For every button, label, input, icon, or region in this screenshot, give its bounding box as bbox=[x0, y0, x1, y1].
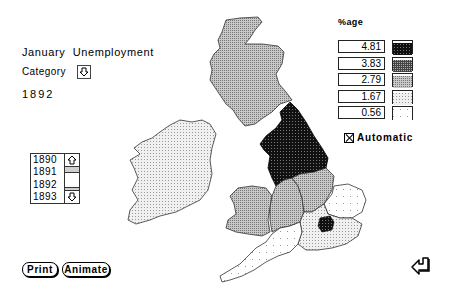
scroll-track[interactable] bbox=[65, 166, 79, 191]
year-item[interactable]: 1893 bbox=[33, 191, 64, 203]
region-ireland[interactable] bbox=[128, 120, 216, 224]
region-wales[interactable] bbox=[226, 186, 272, 236]
uk-map bbox=[100, 0, 440, 296]
scroll-thumb[interactable] bbox=[65, 172, 79, 188]
up-arrow-icon bbox=[67, 155, 77, 165]
region-scotland[interactable] bbox=[210, 17, 292, 126]
year-scrollbar[interactable] bbox=[64, 154, 79, 203]
year-items: 1890 1891 1892 1893 bbox=[31, 154, 64, 203]
print-button[interactable]: Print bbox=[22, 262, 58, 277]
year-item[interactable]: 1890 bbox=[33, 154, 64, 166]
category-label: Category bbox=[22, 66, 66, 77]
category-dropdown-button[interactable] bbox=[77, 65, 91, 79]
region-london[interactable] bbox=[318, 216, 334, 232]
scroll-down-button[interactable] bbox=[65, 191, 79, 203]
year-item[interactable]: 1891 bbox=[33, 166, 64, 178]
scroll-up-button[interactable] bbox=[65, 154, 79, 166]
down-arrow-icon bbox=[79, 67, 89, 77]
down-arrow-icon bbox=[67, 192, 77, 202]
year-item[interactable]: 1892 bbox=[33, 179, 64, 191]
year-list[interactable]: 1890 1891 1892 1893 bbox=[30, 153, 80, 204]
